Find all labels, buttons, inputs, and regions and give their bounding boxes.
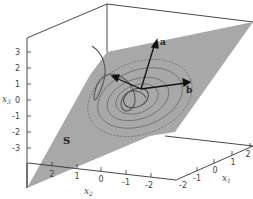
svg-text:0: 0	[15, 96, 20, 105]
svg-text:2: 2	[15, 64, 20, 73]
svg-text:1: 1	[230, 158, 235, 167]
svg-text:-2: -2	[12, 128, 20, 137]
svg-text:2: 2	[49, 170, 54, 179]
vector-a-label: a	[160, 37, 166, 47]
svg-text:-1: -1	[193, 174, 201, 183]
svg-text:-1: -1	[12, 112, 20, 121]
x3-ticks	[27, 52, 31, 148]
svg-text:-2: -2	[179, 181, 187, 190]
x3-axis-label: x3	[2, 94, 11, 105]
x1-axis-label: x1	[222, 173, 231, 184]
svg-text:-2: -2	[145, 181, 153, 190]
x1-tick-labels: -2 -1 0 1 2	[179, 150, 251, 190]
plane-s	[27, 22, 253, 188]
plane-label: S	[63, 135, 70, 146]
diagram-canvas: a b S 3 2 1 0 -1 -2 -3 x3	[0, 0, 253, 199]
x3-tick-labels: 3 2 1 0 -1 -2 -3	[12, 48, 20, 153]
svg-text:1: 1	[74, 172, 79, 181]
svg-text:0: 0	[98, 175, 103, 184]
x2-axis-label: x2	[84, 186, 93, 197]
svg-text:2: 2	[245, 150, 250, 159]
svg-text:0: 0	[212, 166, 217, 175]
svg-text:3: 3	[15, 48, 20, 57]
svg-text:-1: -1	[122, 178, 130, 187]
svg-text:-3: -3	[12, 144, 20, 153]
vector-b-label: b	[186, 85, 192, 95]
svg-text:1: 1	[15, 80, 20, 89]
x2-tick-labels: 2 1 0 -1 -2	[49, 170, 153, 190]
